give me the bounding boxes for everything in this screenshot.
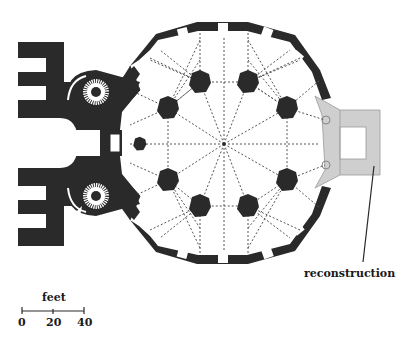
center-point: [222, 142, 226, 146]
scale-bar: [22, 307, 84, 314]
west-entrance: [18, 42, 140, 246]
reconstruction-leader-line: [363, 166, 374, 262]
reconstruction-label: reconstruction: [304, 267, 395, 280]
scale-tick-20: 20: [46, 316, 61, 329]
reconstruction-annex: [315, 96, 380, 188]
scale-unit-label: feet: [42, 291, 66, 304]
vault-lines: [130, 33, 325, 253]
scale-tick-40: 40: [77, 316, 92, 329]
scale-tick-0: 0: [18, 316, 26, 329]
